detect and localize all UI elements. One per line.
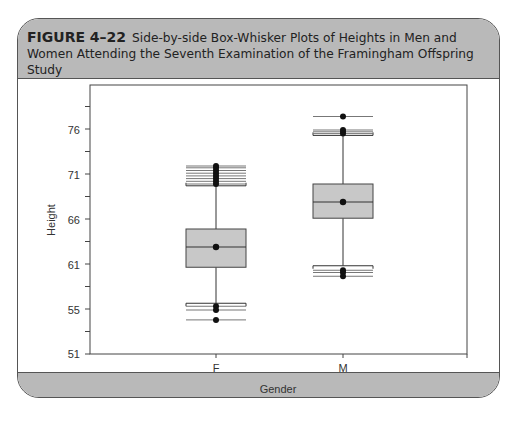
y-tick-label: 71 (68, 169, 80, 181)
y-tick-label: 61 (68, 259, 80, 271)
box-F (186, 163, 246, 323)
y-tick-label: 51 (68, 348, 80, 360)
y-tick-label: 55 (68, 304, 80, 316)
y-tick-label: 66 (68, 214, 80, 226)
box-M (313, 114, 373, 280)
plot-frame (90, 85, 467, 354)
x-axis-label: Gender (260, 383, 297, 395)
axes: 515561667176FM (68, 85, 467, 374)
box-plot-chart: 515561667176FM Height Gender (0, 0, 516, 432)
y-axis-label: Height (45, 204, 57, 236)
y-tick-label: 76 (68, 124, 80, 136)
boxes (186, 114, 373, 323)
x-tick-label: M (338, 362, 347, 374)
x-tick-label: F (213, 362, 220, 374)
